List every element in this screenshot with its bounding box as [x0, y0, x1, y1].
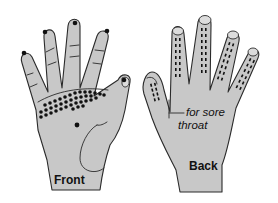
fingertip-point-thumb — [122, 78, 127, 83]
annotation-line-1: for sore — [186, 106, 225, 119]
sore-throat-annotation: for sore throat — [186, 106, 225, 132]
hands-diagram — [0, 0, 278, 203]
annotation-line-2: throat — [178, 119, 225, 132]
fingertip-point-middle — [73, 21, 78, 26]
back-label: Back — [189, 159, 218, 173]
front-label: Front — [54, 173, 85, 187]
front-hand — [21, 19, 130, 190]
fingertip-point-pinky — [22, 51, 27, 56]
fingertip-point-index — [105, 29, 110, 34]
center-palm-point — [75, 123, 80, 128]
fingertip-point-ring — [43, 30, 48, 35]
